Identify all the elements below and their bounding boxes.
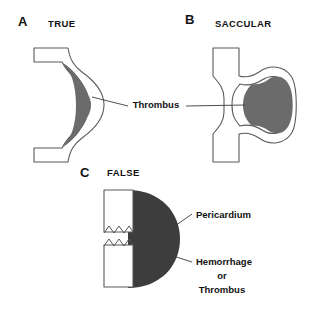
panel-title-true: TRUE <box>48 18 75 29</box>
panel-b-saccular <box>186 48 296 162</box>
callout-or: or <box>217 270 227 281</box>
callout-pericardium: Pericardium <box>196 209 251 220</box>
panel-c-false <box>104 190 192 288</box>
panel-letter-a: A <box>18 14 28 29</box>
panel-letter-b: B <box>185 12 194 27</box>
panel-a-vessel-wall <box>34 48 104 162</box>
panel-a-true <box>34 48 128 162</box>
panel-c-mass <box>128 190 180 288</box>
callout-thrombus-c: Thrombus <box>199 284 245 295</box>
callout-thrombus: Thrombus <box>133 99 179 110</box>
panel-c-vessel-lower <box>104 245 133 287</box>
panel-title-saccular: SACCULAR <box>215 18 272 29</box>
aneurysm-figure: A TRUE B SACCULAR C FALSE Thrombus Peric… <box>0 0 312 314</box>
panel-letter-c: C <box>80 165 90 180</box>
panel-title-false: FALSE <box>107 167 140 178</box>
figure-canvas: A TRUE B SACCULAR C FALSE Thrombus Peric… <box>0 0 312 314</box>
callout-hemorrhage: Hemorrhage <box>196 256 252 267</box>
